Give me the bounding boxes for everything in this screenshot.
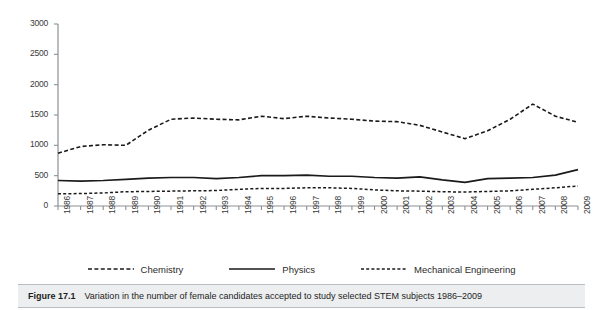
x-axis-tick-label: 1993 [220, 196, 230, 214]
y-axis-tick-label: 500 [14, 170, 48, 180]
x-axis-tick-label: 2002 [424, 196, 434, 214]
x-axis-tick-label: 2000 [379, 196, 389, 214]
x-axis-tick-label: 2007 [537, 196, 547, 214]
figure-caption-text: Variation in the number of female candid… [85, 291, 483, 301]
x-axis-tick-label: 1997 [311, 196, 321, 214]
x-axis-tick-label: 1989 [130, 196, 140, 214]
x-axis-tick-label: 1998 [333, 196, 343, 214]
x-axis-tick-label: 2008 [559, 196, 569, 214]
x-axis-tick-label: 1986 [62, 196, 72, 214]
y-axis-tick-label: 1500 [14, 109, 48, 119]
x-axis-tick-label: 2005 [492, 196, 502, 214]
series-line-chemistry [58, 104, 578, 153]
legend-swatch-dotted [361, 265, 407, 273]
chart-plot-area: 050010001500200025003000 198619871988198… [0, 0, 603, 258]
legend-swatch-solid [229, 265, 275, 273]
x-axis-tick-label: 1995 [265, 196, 275, 214]
x-axis-tick-label: 1996 [288, 196, 298, 214]
x-axis-tick-label: 1991 [175, 196, 185, 214]
x-axis-tick-label: 2006 [514, 196, 524, 214]
figure-caption-label: Figure 17.1 [28, 291, 76, 301]
x-axis-tick-label: 2003 [446, 196, 456, 214]
y-axis-tick-label: 1000 [14, 139, 48, 149]
axis-ticks [54, 24, 578, 210]
y-axis-tick-label: 2000 [14, 79, 48, 89]
y-axis-tick-label: 3000 [14, 18, 48, 28]
legend-item-physics[interactable]: Physics [229, 264, 315, 275]
series-line-physics [58, 170, 578, 183]
x-axis-tick-label: 1987 [85, 196, 95, 214]
x-axis-tick-label: 1994 [243, 196, 253, 214]
legend-item-mechanical-engineering[interactable]: Mechanical Engineering [361, 264, 515, 275]
data-series-group [58, 104, 578, 194]
figure-caption: Figure 17.1 Variation in the number of f… [18, 284, 585, 308]
legend-label: Physics [282, 264, 315, 275]
legend-swatch-dashed [88, 265, 134, 273]
y-axis-tick-label: 0 [14, 200, 48, 210]
x-axis-tick-label: 1999 [356, 196, 366, 214]
x-axis-tick-label: 1992 [198, 196, 208, 214]
legend-label: Chemistry [141, 264, 184, 275]
legend-label: Mechanical Engineering [414, 264, 515, 275]
x-axis-tick-label: 2004 [469, 196, 479, 214]
x-axis-tick-label: 1990 [152, 196, 162, 214]
y-axis-tick-label: 2500 [14, 48, 48, 58]
chart-svg [0, 0, 603, 258]
x-axis-tick-label: 2001 [401, 196, 411, 214]
chart-legend: ChemistryPhysicsMechanical Engineering [0, 258, 603, 280]
legend-item-chemistry[interactable]: Chemistry [88, 264, 184, 275]
series-line-mechanical-engineering [58, 186, 578, 194]
x-axis-tick-label: 1988 [107, 196, 117, 214]
x-axis-tick-label: 2009 [582, 196, 592, 214]
figure-container: 050010001500200025003000 198619871988198… [0, 0, 603, 310]
